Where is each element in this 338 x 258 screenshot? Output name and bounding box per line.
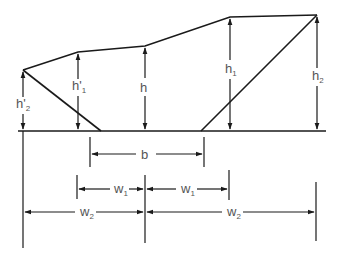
h1-prime-label: h'1 [72, 78, 87, 95]
top-profile-line [23, 15, 317, 70]
w1-right-label: w1 [180, 181, 195, 198]
h-dimension: h [140, 48, 147, 129]
w1-left-dimension: w1 [77, 175, 143, 199]
w2-right-label: w2 [226, 204, 241, 221]
w2-left-dimension: w2 [25, 204, 143, 221]
h2-prime-dimension: h'2 [16, 72, 31, 129]
h-label: h [140, 80, 147, 95]
h1-dimension: h1 [225, 19, 237, 129]
right-slope-line [201, 15, 317, 131]
h1-label: h1 [225, 61, 237, 78]
w1-left-label: w1 [113, 181, 128, 198]
left-slope-line [23, 70, 101, 131]
w2-left-label: w2 [79, 204, 94, 221]
b-label: b [141, 147, 148, 162]
diagram-canvas: h'2 h'1 h h1 h2 b w1 [0, 0, 338, 258]
h2-label: h2 [312, 68, 324, 85]
b-dimension: b [90, 137, 204, 167]
w2-right-dimension: w2 [147, 204, 314, 221]
h2-prime-label: h'2 [16, 96, 31, 113]
h2-dimension: h2 [312, 17, 324, 129]
w1-right-dimension: w1 [147, 170, 229, 200]
